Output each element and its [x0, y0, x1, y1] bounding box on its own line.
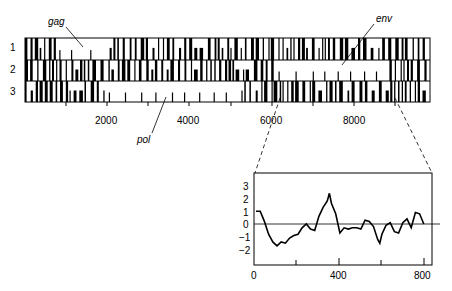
stop-codon-bar: [376, 72, 377, 82]
stop-codon-bar: [215, 38, 217, 60]
stop-codon-bar: [40, 48, 42, 60]
stop-codon-bar: [413, 38, 414, 60]
stop-codon-bar: [256, 38, 259, 60]
stop-codon-bar: [222, 48, 224, 60]
stop-codon-bar: [312, 81, 315, 102]
stop-codon-bar: [31, 91, 33, 103]
stop-codon-bar: [113, 38, 115, 60]
stop-codon-bar: [163, 38, 164, 60]
stop-codon-bar: [322, 38, 323, 60]
stop-codon-bar: [84, 60, 86, 81]
frame-label-2: 2: [10, 64, 16, 75]
stop-codon-bar: [153, 48, 155, 60]
stop-codon-bar: [172, 38, 174, 60]
stop-codon-bar: [43, 60, 46, 81]
stop-codon-bar: [219, 60, 221, 81]
stop-codon-bar: [241, 48, 242, 60]
stop-codon-bar: [208, 38, 211, 60]
gene-label-pol: pol: [136, 134, 151, 145]
stop-codon-bar: [52, 60, 54, 81]
inset-y-2: 2: [243, 194, 249, 205]
stop-codon-bar: [135, 38, 137, 60]
stop-codon-bar: [127, 60, 130, 81]
stop-codon-bar: [405, 81, 407, 102]
stop-codon-bar: [117, 38, 119, 60]
frame-label-3: 3: [10, 86, 16, 97]
stop-codon-bar: [184, 38, 186, 60]
stop-codon-bar: [71, 50, 72, 60]
stop-codon-bar: [324, 72, 325, 82]
stop-codon-bar: [287, 81, 288, 102]
stop-codon-bar: [56, 60, 57, 81]
stop-codon-bar: [424, 60, 426, 81]
stop-codon-bar: [118, 60, 120, 81]
stop-codon-bar: [155, 60, 157, 81]
stop-codon-bar: [88, 60, 90, 81]
inset-y-m2: −2: [239, 245, 251, 256]
stop-codon-bar: [358, 38, 360, 60]
stop-codon-bar: [80, 60, 82, 81]
stop-codon-bar: [194, 70, 198, 82]
stop-codon-bar: [199, 93, 200, 103]
stop-codon-bar: [210, 60, 212, 81]
stop-codon-bar: [226, 93, 227, 103]
stop-codon-bar: [415, 81, 416, 102]
stop-codon-bar: [214, 60, 215, 81]
inset-y-3: 3: [243, 181, 249, 192]
stop-codon-bar: [352, 81, 355, 102]
stop-codon-bar: [411, 60, 413, 81]
stop-codon-bar: [364, 72, 365, 82]
stop-codon-bar: [161, 60, 163, 81]
stop-codon-bar: [139, 60, 142, 81]
stop-codon-bar: [386, 91, 389, 103]
inset-frame: [254, 173, 432, 265]
stop-codon-bar: [146, 60, 148, 81]
stop-codon-bar: [298, 38, 300, 60]
stop-codon-bar: [146, 38, 148, 60]
zoom-guide-left: [255, 98, 280, 173]
stop-codon-bar: [151, 70, 153, 82]
stop-codon-bar: [291, 81, 294, 102]
stop-codon-bar: [170, 60, 174, 81]
inset-y-1: 1: [243, 207, 249, 218]
inset-x-0: 0: [251, 270, 257, 281]
stop-codon-bar: [246, 70, 249, 82]
stop-codon-bar: [418, 81, 420, 102]
stop-codon-bar: [109, 93, 110, 103]
stop-codon-bar: [287, 48, 289, 60]
stop-codon-bar: [36, 81, 38, 102]
stop-codon-bar: [390, 81, 392, 102]
stop-codon-bar: [243, 70, 244, 82]
stop-codon-bar: [91, 81, 94, 102]
stop-codon-bar: [330, 81, 333, 102]
stop-codon-bar: [261, 81, 262, 102]
stop-codon-bar: [225, 60, 227, 81]
stop-codon-bar: [167, 70, 169, 82]
stop-codon-bar: [110, 48, 112, 60]
gag-pointer: [66, 27, 83, 47]
stop-codon-bar: [271, 60, 274, 81]
stop-codon-bar: [302, 81, 305, 102]
stop-codon-bar: [402, 81, 403, 102]
stop-codon-bar: [295, 81, 299, 102]
frame-label-1: 1: [10, 42, 16, 53]
stop-codon-bar: [398, 81, 400, 102]
x-axis: [66, 102, 395, 106]
stop-codon-bar: [313, 72, 314, 82]
stop-codon-bar: [360, 81, 363, 102]
zoom-guide-right: [395, 98, 432, 173]
stop-codon-bar: [335, 81, 337, 102]
x-tick-4000: 4000: [177, 115, 200, 126]
stop-codon-bar: [348, 91, 350, 103]
stop-codon-bar: [363, 38, 367, 60]
stop-codon-bar: [245, 38, 247, 60]
x-tick-8000: 8000: [343, 115, 366, 126]
stop-codon-bar: [350, 72, 351, 82]
stop-codon-bar: [256, 91, 258, 103]
inset-x-400: 400: [330, 270, 347, 281]
stop-codon-bar: [97, 81, 99, 102]
stop-codon-bar: [268, 38, 269, 60]
figure: 1 2 3 2000 4000 6000 8000 gag pol env: [0, 0, 452, 291]
stop-codon-bar: [90, 50, 91, 60]
stop-codon-bar: [125, 93, 126, 103]
